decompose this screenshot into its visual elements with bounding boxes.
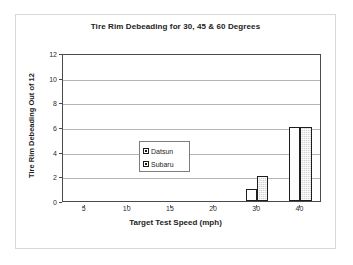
x-tick-mark: [170, 205, 171, 208]
x-tick-mark: [84, 205, 85, 208]
y-tick-label: 2: [31, 174, 57, 181]
y-tick-label: 10: [31, 75, 57, 82]
x-tick-mark: [299, 205, 300, 208]
x-tick-mark: [213, 205, 214, 208]
y-tick-mark: [59, 54, 62, 55]
x-axis-title: Target Test Speed (mph): [15, 218, 336, 227]
chart-figure: Tire Rim Debeading for 30, 45 & 60 Degre…: [0, 0, 353, 265]
y-tick-mark: [59, 177, 62, 178]
x-axis-ticks: 51015203040: [62, 205, 321, 217]
y-tick-mark: [59, 202, 62, 203]
y-tick-mark: [59, 128, 62, 129]
y-tick-label: 4: [31, 149, 57, 156]
y-tick-label: 0: [31, 199, 57, 206]
x-tick-mark: [256, 205, 257, 208]
y-tick-label: 8: [31, 100, 57, 107]
y-tick-label: 12: [31, 51, 57, 58]
y-tick-label: 6: [31, 125, 57, 132]
y-tick-mark: [59, 79, 62, 80]
x-tick-mark: [127, 205, 128, 208]
y-tick-mark: [59, 153, 62, 154]
y-tick-mark: [59, 103, 62, 104]
